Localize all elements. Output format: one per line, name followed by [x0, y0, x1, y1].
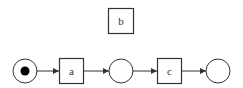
transition-c[interactable]: c — [158, 59, 182, 84]
transition-c-label: c — [167, 65, 172, 77]
transition-a[interactable]: a — [60, 59, 84, 84]
transition-a-label: a — [69, 65, 74, 77]
transition-b[interactable]: b — [109, 9, 134, 34]
token-icon — [21, 67, 30, 76]
place-end[interactable] — [206, 59, 230, 83]
place-start[interactable] — [13, 59, 37, 83]
place-middle[interactable] — [109, 59, 133, 83]
transition-b-label: b — [118, 15, 124, 27]
petri-net-diagram: b a c — [0, 0, 243, 88]
